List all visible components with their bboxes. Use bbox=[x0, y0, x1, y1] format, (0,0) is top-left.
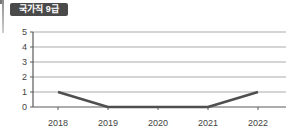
chart-svg: 01234520182019202020212022 bbox=[0, 0, 296, 139]
x-tick-label: 2021 bbox=[198, 118, 218, 128]
gridlines bbox=[33, 32, 286, 92]
data-line bbox=[58, 92, 258, 107]
x-tick-label: 2020 bbox=[148, 118, 168, 128]
y-tick-label: 4 bbox=[22, 42, 27, 52]
y-tick-label: 0 bbox=[22, 102, 27, 112]
data-series bbox=[58, 92, 258, 107]
x-tick-label: 2019 bbox=[98, 118, 118, 128]
y-tick-label: 3 bbox=[22, 57, 27, 67]
y-tick-label: 1 bbox=[22, 87, 27, 97]
chart-panel: 국가직 9급 01234520182019202020212022 bbox=[0, 0, 296, 139]
y-tick-label: 5 bbox=[22, 27, 27, 37]
tick-marks bbox=[30, 32, 258, 110]
y-tick-labels: 012345 bbox=[22, 27, 27, 112]
x-tick-label: 2018 bbox=[48, 118, 68, 128]
y-tick-label: 2 bbox=[22, 72, 27, 82]
x-tick-labels: 20182019202020212022 bbox=[48, 118, 268, 128]
x-tick-label: 2022 bbox=[248, 118, 268, 128]
